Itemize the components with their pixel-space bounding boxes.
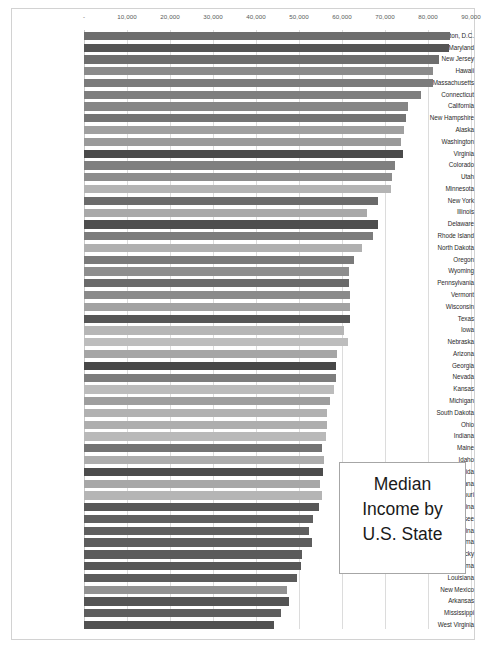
bar-row: Mississippi (12, 607, 474, 619)
x-axis-tick-0: - (83, 13, 85, 20)
bar-row: New Jersey (12, 54, 474, 66)
bar-category-label: Minnesota (406, 186, 474, 192)
bar-row: Virginia (12, 148, 474, 160)
bar-row: New Mexico (12, 584, 474, 596)
bar (84, 173, 392, 181)
bar-row: Colorado (12, 160, 474, 172)
bar-category-label: Indiana (406, 433, 474, 439)
bar-row: Indiana (12, 431, 474, 443)
bar (84, 315, 350, 323)
x-axis-tick-30000: 30,000 (203, 13, 223, 20)
bar-row: Kansas (12, 384, 474, 396)
bar (84, 209, 367, 217)
bar (84, 114, 406, 122)
x-axis-tick-10000: 10,000 (117, 13, 137, 20)
bar-row: Vermont (12, 289, 474, 301)
bar (84, 32, 450, 40)
bar (84, 527, 309, 535)
bar-row: Rhode Island (12, 230, 474, 242)
bar-row: Washington, D.C. (12, 30, 474, 42)
bar (84, 79, 433, 87)
bar-row: Maryland (12, 42, 474, 54)
bar-category-label: Mississippi (406, 610, 474, 616)
bar-row: Massachusetts (12, 77, 474, 89)
x-axis-tick-90000: 90,000 (461, 13, 481, 20)
bar-category-label: Rhode Island (406, 233, 474, 239)
bar-row: New Hampshire (12, 112, 474, 124)
bar-row: Michigan (12, 395, 474, 407)
bar-category-label: Georgia (406, 363, 474, 369)
bar-category-label: Kansas (406, 386, 474, 392)
bar-row: California (12, 101, 474, 113)
bar (84, 102, 408, 110)
bar (84, 421, 327, 429)
bar (84, 538, 312, 546)
bar-row: Utah (12, 171, 474, 183)
bar (84, 562, 301, 570)
bar-row: New York (12, 195, 474, 207)
bar-row: Arkansas (12, 596, 474, 608)
bar (84, 44, 449, 52)
x-axis-tick-40000: 40,000 (246, 13, 266, 20)
bar-row: Alaska (12, 124, 474, 136)
bar-row: Pennsylvania (12, 277, 474, 289)
bar (84, 444, 322, 452)
chart-title-text: Median Income by U.S. State (362, 472, 443, 547)
bar (84, 220, 378, 228)
bar-row: North Dakota (12, 242, 474, 254)
bar (84, 385, 334, 393)
bar-category-label: Wyoming (406, 268, 474, 274)
bar (84, 503, 319, 511)
bar-category-label: Delaware (406, 221, 474, 227)
bar (84, 232, 373, 240)
bar (84, 91, 421, 99)
bar-category-label: Arkansas (406, 598, 474, 604)
bar-row: Iowa (12, 325, 474, 337)
bar (84, 397, 330, 405)
bar (84, 256, 354, 264)
bar-row: Nevada (12, 372, 474, 384)
bar (84, 432, 326, 440)
bar-category-label: New Hampshire (406, 115, 474, 121)
x-axis-tick-50000: 50,000 (289, 13, 309, 20)
bar-category-label: Wisconsin (406, 304, 474, 310)
bar-category-label: West Virginia (406, 622, 474, 628)
bar-row: South Dakota (12, 407, 474, 419)
bar (84, 197, 378, 205)
bar-row: Wisconsin (12, 301, 474, 313)
bar (84, 244, 362, 252)
bar (84, 491, 322, 499)
bar-category-label: Oregon (406, 257, 474, 263)
bar-category-label: New York (406, 198, 474, 204)
bar-category-label: Illinois (406, 209, 474, 215)
bar-category-label: Nebraska (406, 339, 474, 345)
bar-category-label: Virginia (406, 151, 474, 157)
bar-category-label: Arizona (406, 351, 474, 357)
bar (84, 409, 327, 417)
bar (84, 574, 297, 582)
bar-row: Minnesota (12, 183, 474, 195)
bar (84, 161, 395, 169)
bar-row: Arizona (12, 348, 474, 360)
bar (84, 67, 433, 75)
bar-category-label: Iowa (406, 327, 474, 333)
bar-category-label: Vermont (406, 292, 474, 298)
bar (84, 350, 337, 358)
bar-row: Ohio (12, 419, 474, 431)
bar-category-label: Nevada (406, 374, 474, 380)
bar (84, 185, 391, 193)
bar-category-label: Ohio (406, 422, 474, 428)
bar-category-label: Pennsylvania (406, 280, 474, 286)
bar-category-label: South Dakota (406, 410, 474, 416)
bar-category-label: California (406, 103, 474, 109)
bar-row: Hawaii (12, 65, 474, 77)
bar-category-label: Louisiana (406, 575, 474, 581)
bar-category-label: Texas (406, 316, 474, 322)
bar (84, 597, 289, 605)
bar-row: West Virginia (12, 619, 474, 631)
bar-row: Wyoming (12, 266, 474, 278)
bar-category-label: Michigan (406, 398, 474, 404)
bar (84, 586, 287, 594)
bar (84, 279, 349, 287)
bar-category-label: New Mexico (406, 587, 474, 593)
